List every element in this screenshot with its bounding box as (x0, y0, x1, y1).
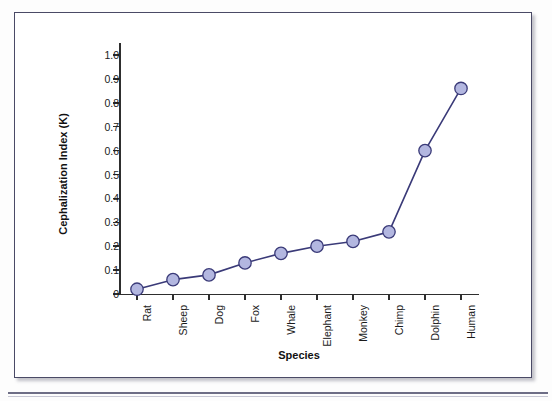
page-canvas: 00.10.20.30.40.50.60.70.80.91.0 RatSheep… (0, 0, 552, 401)
series-polyline (137, 88, 461, 289)
plot-area: 00.10.20.30.40.50.60.70.80.91.0 RatSheep… (15, 13, 533, 379)
data-point-chimp (383, 226, 395, 238)
data-point-human (455, 82, 467, 94)
data-point-monkey (347, 235, 359, 247)
page-rule-thin (8, 396, 548, 397)
data-point-elephant (311, 240, 323, 252)
figure-frame: 00.10.20.30.40.50.60.70.80.91.0 RatSheep… (14, 12, 532, 378)
page-rule-thick (8, 392, 548, 394)
series-line-and-markers (15, 13, 533, 379)
y-axis-title: Cephalization Index (K) (57, 74, 69, 274)
data-point-dog (203, 269, 215, 281)
data-point-dolphin (419, 144, 431, 156)
data-point-sheep (167, 273, 179, 285)
data-point-whale (275, 247, 287, 259)
data-point-rat (131, 283, 143, 295)
x-axis-title: Species (119, 349, 479, 361)
series-markers (131, 82, 467, 295)
data-point-fox (239, 257, 251, 269)
